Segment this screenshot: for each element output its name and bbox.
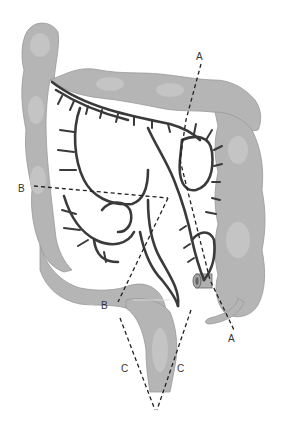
label-a-top: A: [196, 51, 203, 62]
haustra-highlight: [96, 77, 124, 91]
haustra-highlight: [156, 83, 184, 97]
label-b-lower: B: [101, 300, 108, 311]
line-b-horizontal: [34, 186, 168, 198]
haustra-highlight: [228, 136, 248, 164]
haustra-highlight: [28, 96, 44, 124]
label-c-right: C: [177, 363, 184, 374]
mesenteric-vessels: [52, 82, 222, 306]
label-b-left: B: [18, 183, 25, 194]
left-colic-loop: [180, 137, 213, 190]
inferior-mesenteric-trunk: [148, 128, 204, 280]
colon-anatomy-diagram: A A B B C C: [0, 0, 289, 428]
haustra-highlight: [226, 222, 250, 258]
ascending-colon: [22, 23, 72, 272]
middle-colic-loop: [75, 108, 148, 204]
rectum: [126, 299, 177, 393]
label-c-left: C: [121, 363, 128, 374]
haustra-highlight: [30, 166, 46, 194]
haustra-highlight: [30, 33, 50, 57]
label-a-bottom: A: [228, 333, 235, 344]
haustra-highlight: [152, 328, 168, 372]
lower-loop: [102, 203, 131, 233]
